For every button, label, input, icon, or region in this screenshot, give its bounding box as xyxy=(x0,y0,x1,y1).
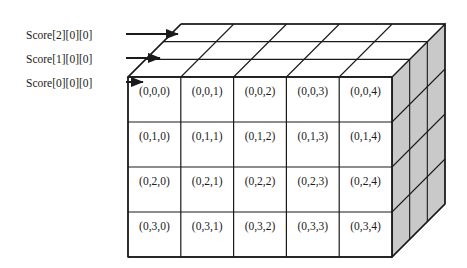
cell-label: (0,2,0) xyxy=(139,175,170,187)
cell-label: (0,1,0) xyxy=(139,130,170,142)
cell-label: (0,3,0) xyxy=(139,220,170,232)
cell-label: (0,1,3) xyxy=(297,130,328,142)
cell-label: (0,3,4) xyxy=(350,220,381,232)
cell-label: (0,2,4) xyxy=(350,175,381,187)
label-score2: Score[2][0][0] xyxy=(26,29,92,41)
cell-label: (0,3,3) xyxy=(297,220,328,232)
cell-label: (0,0,3) xyxy=(297,85,328,97)
cell-label: (0,2,1) xyxy=(192,175,223,187)
cell-label: (0,0,4) xyxy=(350,85,381,97)
array-3d-figure: Score[2][0][0]Score[1][0][0]Score[0][0][… xyxy=(0,0,467,268)
label-score0: Score[0][0][0] xyxy=(26,77,92,89)
cell-label: (0,3,2) xyxy=(245,220,276,232)
cell-label: (0,2,3) xyxy=(297,175,328,187)
cell-label: (0,1,2) xyxy=(245,130,276,142)
cell-label: (0,1,1) xyxy=(192,130,223,142)
cell-label: (0,0,2) xyxy=(245,85,276,97)
cell-label: (0,1,4) xyxy=(350,130,381,142)
cell-label: (0,0,1) xyxy=(192,85,223,97)
cell-label: (0,0,0) xyxy=(139,85,170,97)
label-score1: Score[1][0][0] xyxy=(26,53,92,65)
cell-label: (0,3,1) xyxy=(192,220,223,232)
cell-label: (0,2,2) xyxy=(245,175,276,187)
